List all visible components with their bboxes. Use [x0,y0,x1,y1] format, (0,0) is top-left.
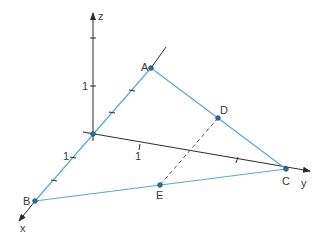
point-a [149,66,154,71]
y-axis [83,132,310,171]
x-axis-label: x [20,222,26,234]
point-b [33,199,38,204]
z-unit-label: 1 [82,80,88,92]
y-axis-label: y [301,177,307,189]
z-axis [90,13,96,141]
diagram-canvas: z y x 1 1 1 A B C D E [0,0,326,238]
z-axis-label: z [98,10,104,22]
y-unit-label: 1 [135,150,141,162]
label-d: D [220,104,228,116]
point-c [284,167,289,172]
label-c: C [282,175,290,187]
x-unit-label: 1 [63,150,69,162]
label-b: B [23,195,30,207]
point-e [158,183,163,188]
segment-de [160,118,218,185]
point-d [216,116,221,121]
label-e: E [156,189,163,201]
coordinate-diagram: z y x 1 1 1 A B C D E [0,0,326,238]
triangle-abc [35,68,286,201]
origin-point [91,132,96,137]
label-a: A [141,61,149,73]
